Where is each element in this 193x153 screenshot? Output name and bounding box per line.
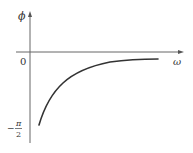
y-min-sign: −	[7, 123, 15, 133]
y-min-numerator: π	[15, 119, 22, 128]
phase-curve	[39, 59, 158, 125]
origin-label: 0	[20, 56, 26, 67]
y-axis-label: ϕ	[18, 10, 26, 23]
y-axis-arrow-icon	[28, 11, 32, 17]
y-min-denominator: 2	[16, 130, 21, 139]
x-axis-label: ω	[173, 56, 181, 67]
phase-chart: ϕ 0 ω − π 2	[0, 0, 193, 153]
x-axis-arrow-icon	[178, 50, 184, 54]
